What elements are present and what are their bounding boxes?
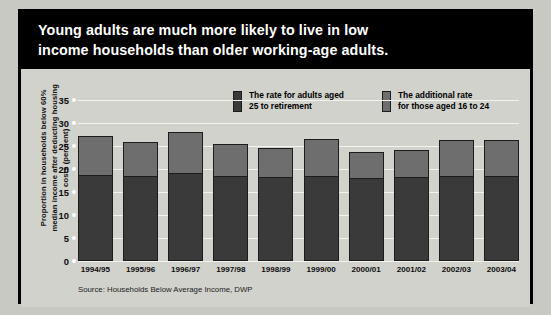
x-tick-label: 2002/03 — [439, 265, 474, 274]
y-tick-label: 15 — [59, 187, 69, 198]
bar-slot — [484, 100, 519, 261]
bar-segment-aged-16-to-24[interactable] — [305, 140, 338, 176]
stacked-bar[interactable] — [123, 142, 158, 261]
bar-segment-aged-16-to-24[interactable] — [350, 153, 383, 178]
y-tick-marker-icon — [72, 236, 76, 240]
bar-segment-adults-25-to-retirement[interactable] — [214, 177, 247, 260]
y-tick-label: 20 — [59, 164, 69, 175]
x-tick-label: 1999/00 — [304, 265, 339, 274]
stacked-bar[interactable] — [78, 136, 113, 261]
bar-slot — [123, 100, 158, 261]
y-tick-marker-icon — [72, 259, 76, 263]
y-tick-label: 0 — [64, 256, 69, 267]
bar-slot — [304, 100, 339, 261]
bar-segment-adults-25-to-retirement[interactable] — [305, 177, 338, 260]
bar-segment-aged-16-to-24[interactable] — [124, 143, 157, 176]
stacked-bar[interactable] — [304, 139, 339, 261]
bar-slot — [349, 100, 384, 261]
chart-figure: Young adults are much more likely to liv… — [18, 9, 533, 304]
y-tick-label: 5 — [64, 233, 69, 244]
y-tick-marker-icon — [72, 121, 76, 125]
x-tick-label: 2001/02 — [394, 265, 429, 274]
bar-series-group — [78, 100, 519, 261]
stacked-bar[interactable] — [439, 140, 474, 261]
bar-segment-aged-16-to-24[interactable] — [485, 141, 518, 176]
bar-slot — [439, 100, 474, 261]
bar-slot — [258, 100, 293, 261]
x-tick-label: 1996/97 — [168, 265, 203, 274]
stacked-bar[interactable] — [213, 144, 248, 261]
y-tick-marker-icon — [72, 98, 76, 102]
bar-segment-adults-25-to-retirement[interactable] — [395, 178, 428, 260]
legend-label-line-1: The rate for adults aged — [249, 90, 344, 100]
plot-area: 05101520253035 — [78, 100, 519, 261]
y-tick-label: 35 — [59, 95, 69, 106]
bar-segment-aged-16-to-24[interactable] — [214, 145, 247, 176]
stacked-bar[interactable] — [258, 148, 293, 261]
y-tick-marker-icon — [72, 213, 76, 217]
chart-body: The rate for adults aged 25 to retiremen… — [21, 69, 530, 307]
x-axis-labels: 1994/951995/961996/971997/981998/991999/… — [78, 265, 519, 274]
stacked-bar[interactable] — [168, 132, 203, 261]
bar-slot — [394, 100, 429, 261]
legend-label-line-1: The additional rate — [398, 90, 472, 100]
x-tick-label: 1995/96 — [123, 265, 158, 274]
bar-segment-aged-16-to-24[interactable] — [79, 137, 112, 175]
bar-segment-adults-25-to-retirement[interactable] — [79, 176, 112, 260]
bar-segment-aged-16-to-24[interactable] — [259, 149, 292, 177]
title-banner: Young adults are much more likely to liv… — [21, 12, 530, 69]
bar-slot — [168, 100, 203, 261]
y-tick-marker-icon — [72, 190, 76, 194]
gridline — [78, 261, 519, 262]
bar-segment-adults-25-to-retirement[interactable] — [259, 178, 292, 260]
bar-slot — [213, 100, 248, 261]
bar-segment-aged-16-to-24[interactable] — [440, 141, 473, 176]
x-tick-label: 1997/98 — [213, 265, 248, 274]
x-tick-label: 1998/99 — [258, 265, 293, 274]
bar-segment-adults-25-to-retirement[interactable] — [124, 177, 157, 260]
source-note: Source: Households Below Average Income,… — [78, 285, 253, 294]
bar-segment-adults-25-to-retirement[interactable] — [485, 177, 518, 260]
stacked-bar[interactable] — [484, 140, 519, 261]
title-line-1: Young adults are much more likely to liv… — [38, 20, 530, 40]
y-tick-label: 30 — [59, 118, 69, 129]
bar-segment-aged-16-to-24[interactable] — [395, 151, 428, 178]
title-line-2: income households than older working-age… — [38, 40, 530, 60]
x-tick-label: 2000/01 — [349, 265, 384, 274]
x-tick-label: 2003/04 — [484, 265, 519, 274]
stacked-bar[interactable] — [349, 152, 384, 261]
x-tick-label: 1994/95 — [78, 265, 113, 274]
y-tick-marker-icon — [72, 167, 76, 171]
bar-slot — [78, 100, 113, 261]
stacked-bar[interactable] — [394, 150, 429, 261]
y-tick-label: 25 — [59, 141, 69, 152]
bar-segment-adults-25-to-retirement[interactable] — [169, 174, 202, 260]
bar-segment-aged-16-to-24[interactable] — [169, 133, 202, 172]
bar-segment-adults-25-to-retirement[interactable] — [350, 179, 383, 260]
bar-segment-adults-25-to-retirement[interactable] — [440, 177, 473, 260]
y-tick-marker-icon — [72, 144, 76, 148]
y-tick-label: 10 — [59, 210, 69, 221]
